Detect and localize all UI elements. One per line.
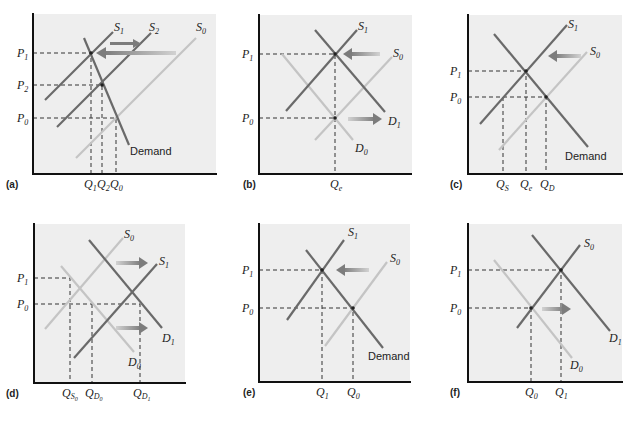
- panel-label: (b): [243, 179, 256, 190]
- equilibrium-point: [544, 95, 548, 99]
- panel-label: (e): [243, 387, 255, 398]
- equilibrium-point: [333, 116, 337, 120]
- panel-d: S0 S1 D1 D0 P1 P0 QS0 QD0 QD1 (d): [6, 223, 186, 402]
- label-qs0: QS0: [62, 386, 78, 402]
- panel-label: (a): [6, 179, 18, 190]
- equilibrium-point: [529, 306, 533, 310]
- label-p1: P1: [449, 263, 461, 279]
- equilibrium-point: [89, 51, 93, 55]
- panel-label: (f): [450, 387, 460, 398]
- plot-area: [468, 224, 622, 382]
- label-p2: P2: [16, 78, 28, 94]
- label-p1: P1: [241, 263, 253, 279]
- label-p0: P0: [16, 297, 28, 313]
- equilibrium-point: [100, 83, 104, 87]
- label-p1: P1: [449, 64, 461, 80]
- panel-label: (d): [6, 388, 19, 399]
- label-p0: P0: [449, 90, 461, 106]
- label-demand: Demand: [565, 150, 607, 162]
- panel-b: S1 S0 D1 D0 P1 P0 Qe (b): [241, 14, 412, 193]
- label-p0: P0: [241, 111, 253, 127]
- label-qe: Qe: [330, 177, 343, 193]
- label-p1: P1: [16, 271, 28, 287]
- plot-area: [259, 15, 412, 174]
- label-p0: P0: [449, 301, 461, 317]
- label-demand: Demand: [130, 145, 172, 157]
- label-q1: Q1: [555, 385, 568, 401]
- equilibrium-point: [333, 52, 337, 56]
- label-q1: Q1: [84, 177, 97, 193]
- label-qd0: QD0: [85, 386, 102, 402]
- panel-e: S1 S0 Demand P1 P0 Q1 Q0 (e): [241, 223, 411, 401]
- label-qd1: QD1: [133, 386, 150, 402]
- label-p0: P0: [241, 301, 253, 317]
- equilibrium-point: [559, 268, 563, 272]
- panel-label: (c): [450, 179, 462, 190]
- supply-demand-figure: S1 S2 S0 Demand P1 P2 P0 Q1 Q2 Q0 (a) S1: [0, 0, 639, 423]
- equilibrium-point: [524, 69, 528, 73]
- label-q1: Q1: [316, 385, 329, 401]
- equilibrium-point: [351, 306, 355, 310]
- label-p1: P1: [16, 46, 28, 62]
- label-q2: Q2: [97, 177, 110, 193]
- label-q0: Q0: [347, 385, 360, 401]
- label-p1: P1: [241, 47, 253, 63]
- panel-f: S0 D1 D0 P1 P0 Q0 Q1 (f): [449, 223, 623, 401]
- label-qe: Qe: [520, 177, 533, 193]
- panel-a: S1 S2 S0 Demand P1 P2 P0 Q1 Q2 Q0 (a): [6, 13, 217, 193]
- equilibrium-point: [320, 268, 324, 272]
- label-qs: QS: [496, 177, 509, 193]
- label-qd: QD: [540, 177, 555, 193]
- label-p0: P0: [16, 111, 28, 127]
- label-q0: Q0: [110, 177, 123, 193]
- label-q0: Q0: [525, 385, 538, 401]
- label-demand: Demand: [368, 350, 410, 362]
- panel-c: S1 S0 Demand P1 P0 QS Qe QD (c): [449, 14, 623, 193]
- plot-area: [33, 14, 216, 174]
